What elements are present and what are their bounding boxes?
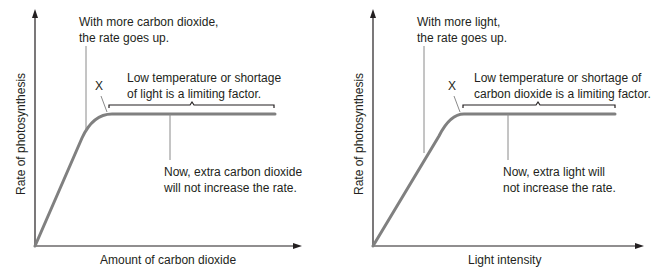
x-leader-line: [101, 96, 107, 112]
point-x-label: X: [448, 78, 456, 94]
limit-bracket: [463, 102, 615, 108]
limit-annotation-line2: carbon dioxide is a limiting factor.: [474, 86, 651, 102]
rise-annotation-line2: the rate goes up.: [417, 30, 507, 46]
x-axis: [35, 243, 302, 249]
limit-annotation-line1: Low temperature or shortage: [127, 70, 281, 86]
plateau-annotation-line2: will not increase the rate.: [164, 180, 297, 196]
y-axis-arrow-icon: [370, 9, 376, 18]
x-leader-line: [454, 96, 460, 112]
y-axis: [32, 9, 38, 246]
point-x-label: X: [95, 78, 103, 94]
plateau-annotation-line1: Now, extra light will: [503, 164, 605, 180]
x-axis-label: Amount of carbon dioxide: [100, 253, 236, 267]
y-axis-arrow-icon: [32, 9, 38, 18]
x-axis-arrow-icon: [293, 243, 302, 249]
x-axis-arrow-icon: [635, 243, 644, 249]
limit-annotation-line2: of light is a limiting factor.: [127, 86, 261, 102]
y-axis-label: Rate of photosynthesis: [352, 73, 366, 195]
rise-annotation-line2: the rate goes up.: [79, 30, 169, 46]
chart-light-intensity: Rate of photosynthesis Light intensity W…: [324, 0, 648, 273]
plateau-annotation-line1: Now, extra carbon dioxide: [164, 164, 302, 180]
limit-bracket: [109, 102, 274, 108]
x-axis-label: Light intensity: [468, 253, 541, 267]
plateau-annotation-line2: not increase the rate.: [503, 180, 616, 196]
x-axis: [373, 243, 644, 249]
rise-annotation-line1: With more light,: [417, 14, 500, 30]
y-axis: [370, 9, 376, 246]
y-axis-label: Rate of photosynthesis: [14, 73, 28, 195]
rise-annotation-line1: With more carbon dioxide,: [79, 14, 218, 30]
limit-annotation-line1: Low temperature or shortage of: [474, 70, 641, 86]
chart-carbon-dioxide: Rate of photosynthesis Amount of carbon …: [0, 0, 324, 273]
